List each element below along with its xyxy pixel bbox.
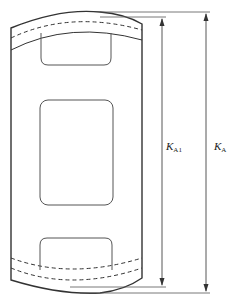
- bottom-dashed-arc-1: [11, 258, 142, 269]
- label-ka1: KA1: [166, 141, 182, 154]
- pad-drawing: [0, 0, 234, 305]
- arrowhead-ka-top: [204, 13, 209, 21]
- label-ka: KA: [214, 141, 226, 154]
- center-window: [40, 100, 113, 205]
- bottom-pocket: [40, 238, 112, 270]
- arrowhead-ka1-bottom: [160, 278, 165, 286]
- top-inner-arc: [11, 32, 142, 50]
- arrowhead-ka1-top: [160, 18, 165, 26]
- bottom-dashed-arc-2: [11, 268, 142, 280]
- top-pocket: [41, 33, 111, 65]
- label-ka1-subscript: A1: [173, 146, 182, 154]
- pad-outline: [11, 11, 142, 293]
- label-ka-subscript: A: [221, 146, 226, 154]
- arrowhead-ka-bottom: [204, 284, 209, 292]
